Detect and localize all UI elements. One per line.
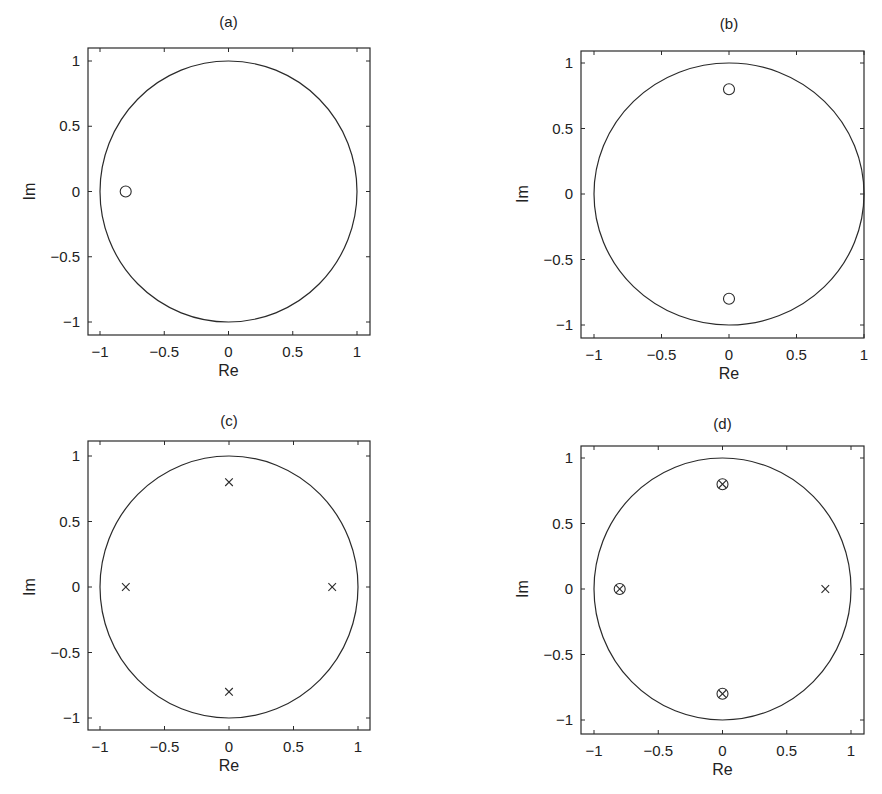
y-tick-label: 1: [72, 447, 80, 464]
y-tick-label: −1: [556, 316, 573, 333]
x-tick-label: 0.5: [786, 346, 807, 363]
x-tick-label: 0: [224, 343, 232, 360]
y-tick-label: −1: [556, 711, 573, 728]
x-tick-label: 0: [725, 346, 733, 363]
y-tick-label: −0.5: [543, 251, 573, 268]
y-axis-label: Im: [21, 183, 38, 201]
x-tick-label: −1: [91, 343, 108, 360]
y-tick-label: 0: [565, 185, 573, 202]
y-tick-label: 0.5: [552, 120, 573, 137]
y-tick-label: 0.5: [59, 513, 80, 530]
x-tick-label: 0.5: [776, 742, 797, 759]
pole-marker-icon: [122, 583, 130, 591]
y-tick-label: 1: [565, 449, 573, 466]
x-tick-label: 1: [860, 346, 868, 363]
unit-circle: [100, 61, 357, 322]
pole-marker-icon: [719, 480, 727, 488]
panel-b: (b)−1−1−0.5−0.5000.50.511ReIm: [514, 15, 868, 382]
panel-a: (a)−1−1−0.5−0.5000.50.511ReIm: [21, 13, 370, 379]
y-axis-label: Im: [514, 185, 531, 203]
x-axis-label: Re: [219, 757, 240, 774]
y-tick-label: 0: [72, 578, 80, 595]
panel-title: (a): [219, 13, 237, 30]
unit-circle: [100, 456, 358, 718]
x-tick-label: 1: [847, 742, 855, 759]
zero-marker-icon: [120, 186, 131, 197]
panel-d: (d)−1−1−0.5−0.5000.50.511ReIm: [514, 415, 864, 778]
x-axis-label: Re: [218, 362, 239, 379]
x-tick-label: 0.5: [283, 738, 304, 755]
x-tick-label: 1: [354, 738, 362, 755]
panel-c: (c)−1−1−0.5−0.5000.50.511ReIm: [21, 412, 370, 774]
x-axis-label: Re: [712, 761, 733, 778]
y-tick-label: 0.5: [552, 515, 573, 532]
x-axis-label: Re: [719, 365, 740, 382]
unit-circle: [594, 63, 864, 325]
zero-marker-icon: [724, 84, 735, 95]
pole-marker-icon: [225, 688, 233, 696]
pole-marker-icon: [616, 585, 624, 593]
y-tick-label: −0.5: [50, 248, 80, 265]
panel-title: (b): [720, 15, 738, 32]
pole-marker-icon: [225, 478, 233, 486]
unit-circle: [594, 458, 851, 720]
panel-title: (d): [713, 415, 731, 432]
y-axis-label: Im: [514, 580, 531, 598]
y-tick-label: −0.5: [50, 644, 80, 661]
x-tick-label: 0: [718, 742, 726, 759]
x-tick-label: 1: [353, 343, 361, 360]
zero-marker-icon: [724, 293, 735, 304]
pole-zero-figure: (a)−1−1−0.5−0.5000.50.511ReIm(b)−1−1−0.5…: [0, 0, 882, 794]
pole-marker-icon: [328, 583, 336, 591]
y-tick-label: −0.5: [543, 646, 573, 663]
y-tick-label: 0: [72, 183, 80, 200]
y-tick-label: 0.5: [59, 117, 80, 134]
x-tick-label: −1: [91, 738, 108, 755]
axes-box: [88, 48, 370, 335]
x-tick-label: 0.5: [282, 343, 303, 360]
y-axis-label: Im: [21, 578, 38, 596]
x-tick-label: −1: [585, 346, 602, 363]
pole-marker-icon: [719, 690, 727, 698]
x-tick-label: −0.5: [149, 343, 179, 360]
panel-title: (c): [220, 412, 238, 429]
x-tick-label: −0.5: [643, 742, 673, 759]
y-tick-label: 1: [72, 52, 80, 69]
axes-box: [581, 51, 864, 338]
x-tick-label: −0.5: [150, 738, 180, 755]
pole-marker-icon: [822, 585, 830, 593]
x-tick-label: −0.5: [647, 346, 677, 363]
y-tick-label: 1: [565, 54, 573, 71]
y-tick-label: −1: [63, 313, 80, 330]
x-tick-label: −1: [585, 742, 602, 759]
x-tick-label: 0: [225, 738, 233, 755]
y-tick-label: −1: [63, 709, 80, 726]
axes-box: [88, 441, 370, 730]
y-tick-label: 0: [565, 580, 573, 597]
